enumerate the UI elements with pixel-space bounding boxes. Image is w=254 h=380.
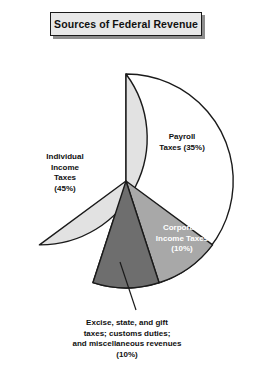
pie-label-excise-state-gift-taxes: Excise, state, and gift taxes; customs d… xyxy=(24,318,230,360)
chart-title-plate: Sources of Federal Revenue xyxy=(50,12,202,36)
figure-sources-of-federal-revenue: Sources of Federal Revenue Individual In… xyxy=(0,0,254,380)
pie-chart: Individual Income Taxes (45%) Payroll Ta… xyxy=(0,44,254,380)
page-title: Sources of Federal Revenue xyxy=(54,19,198,30)
